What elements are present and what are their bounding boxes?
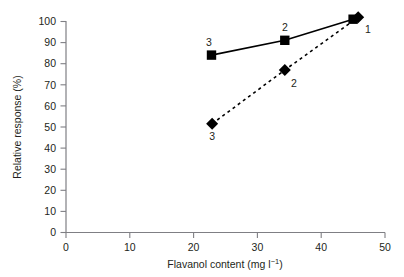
annotation-solid-3: 3: [206, 36, 212, 48]
x-tick-label-0: 0: [63, 241, 69, 253]
x-tick-label-40: 40: [315, 241, 327, 253]
x-tick-label-30: 30: [252, 241, 264, 253]
x-tick-labels: 0 10 20 30 40 50: [63, 241, 391, 253]
x-axis-title-main: Flavanol content (mg l: [167, 258, 270, 270]
y-tick-labels: 0 10 20 30 40 50 60 70 80 90 100: [38, 15, 56, 238]
y-tick-label-10: 10: [44, 205, 56, 217]
y-tick-label-20: 20: [44, 184, 56, 196]
y-tick-label-60: 60: [44, 100, 56, 112]
solid-series-marker-2: [280, 36, 289, 45]
chart-plot-area: 0 10 20 30 40 50 60 70 80 90 100 0 10 20…: [0, 0, 404, 277]
x-tick-label-20: 20: [188, 241, 200, 253]
solid-series-marker-3: [207, 50, 216, 59]
x-axis-title-superscript: −1: [271, 257, 280, 266]
chart-figure: 0 10 20 30 40 50 60 70 80 90 100 0 10 20…: [0, 0, 404, 277]
dashed-series-marker-3: [206, 118, 218, 130]
annotation-dashed-3: 3: [209, 130, 215, 142]
x-axis-title-tail: ): [279, 258, 283, 270]
x-axis-title: Flavanol content (mg l−1): [167, 257, 282, 270]
x-tick-marks: [66, 233, 385, 239]
y-tick-label-0: 0: [50, 226, 56, 238]
dashed-series-marker-2: [279, 64, 291, 76]
y-axis-title: Relative response (%): [11, 75, 23, 178]
annotation-solid-2: 2: [282, 21, 288, 33]
y-tick-label-90: 90: [44, 36, 56, 48]
y-tick-label-70: 70: [44, 79, 56, 91]
x-tick-label-50: 50: [379, 241, 391, 253]
y-tick-label-50: 50: [44, 121, 56, 133]
y-tick-label-30: 30: [44, 163, 56, 175]
annotation-dashed-2: 2: [291, 77, 297, 89]
annotation-solid-1: 1: [365, 23, 371, 35]
y-tick-label-40: 40: [44, 142, 56, 154]
solid-series-marker-1: [348, 15, 357, 24]
y-tick-marks: [61, 22, 67, 233]
y-tick-label-80: 80: [44, 57, 56, 69]
y-tick-label-100: 100: [38, 15, 56, 27]
x-tick-label-10: 10: [124, 241, 136, 253]
